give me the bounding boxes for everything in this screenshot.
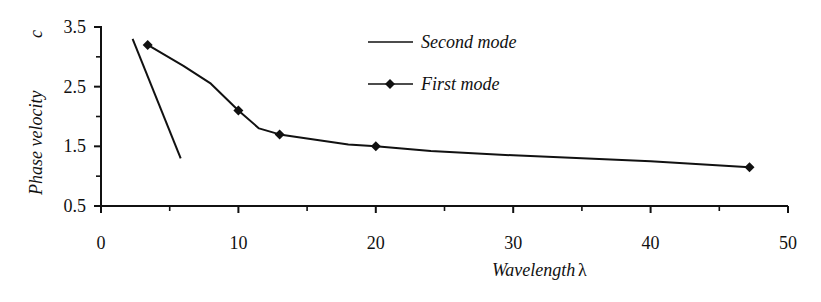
x-tick-label: 30 bbox=[504, 233, 522, 253]
x-tick-label: 50 bbox=[779, 233, 797, 253]
diamond-marker-icon bbox=[745, 162, 755, 172]
series-line bbox=[133, 39, 181, 158]
x-tick-label: 0 bbox=[97, 233, 106, 253]
x-axis-title: Wavelength λ bbox=[492, 260, 587, 280]
legend-label: First mode bbox=[420, 74, 500, 94]
series-first-mode bbox=[143, 40, 755, 172]
x-axis-label: Wavelength bbox=[492, 260, 575, 280]
phase-velocity-chart: 0.51.52.53.5 01020304050 Phase velocity … bbox=[0, 0, 821, 302]
x-tick-label: 40 bbox=[642, 233, 660, 253]
y-tick-label: 3.5 bbox=[64, 17, 87, 37]
legend-item-second-mode: Second mode bbox=[368, 32, 516, 52]
x-tick-label: 10 bbox=[229, 233, 247, 253]
y-ticks: 0.51.52.53.5 bbox=[64, 17, 102, 216]
x-axis-symbol: λ bbox=[578, 260, 587, 280]
series-layer bbox=[133, 39, 755, 172]
legend-item-first-mode: First mode bbox=[368, 74, 500, 94]
legend: Second mode First mode bbox=[368, 32, 516, 94]
x-tick-label: 20 bbox=[367, 233, 385, 253]
diamond-marker-icon bbox=[143, 40, 153, 50]
diamond-marker-icon bbox=[371, 141, 381, 151]
y-tick-label: 0.5 bbox=[64, 196, 87, 216]
legend-label: Second mode bbox=[421, 32, 516, 52]
x-ticks: 01020304050 bbox=[97, 206, 798, 253]
y-axis-symbol: c bbox=[26, 30, 46, 38]
series-second-mode bbox=[133, 39, 181, 158]
diamond-marker-icon bbox=[275, 129, 285, 139]
diamond-marker-icon bbox=[385, 79, 395, 89]
y-axis-label: Phase velocity bbox=[26, 91, 46, 196]
axes: 0.51.52.53.5 01020304050 bbox=[64, 17, 798, 253]
y-tick-label: 1.5 bbox=[64, 136, 87, 156]
y-axis-title: Phase velocity c bbox=[26, 30, 46, 196]
y-tick-label: 2.5 bbox=[64, 77, 87, 97]
